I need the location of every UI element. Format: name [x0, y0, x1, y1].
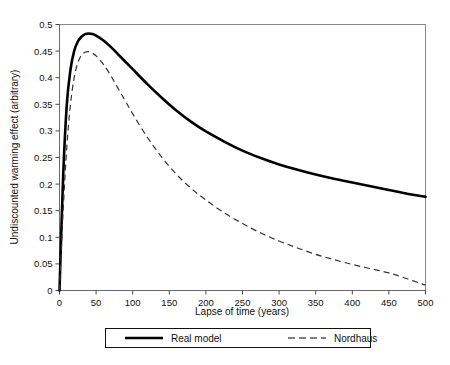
y-tick-label: 0.1: [39, 232, 52, 243]
chart-figure: 00.050.10.150.20.250.30.350.40.450.5 050…: [0, 0, 450, 365]
x-tick-label: 150: [161, 297, 177, 308]
y-tick-label: 0.4: [39, 72, 52, 83]
chart-legend: Real modelNordhaus: [106, 329, 378, 348]
legend-label-real-model: Real model: [171, 333, 222, 344]
legend-label-nordhaus: Nordhaus: [334, 333, 377, 344]
y-axis: 00.050.10.150.20.250.30.350.40.450.5: [34, 19, 60, 296]
x-tick-label: 350: [308, 297, 324, 308]
y-tick-label: 0.5: [39, 19, 52, 30]
chart-canvas: 00.050.10.150.20.250.30.350.40.450.5 050…: [0, 0, 450, 365]
x-tick-label: 0: [57, 297, 62, 308]
series-layer: [60, 34, 426, 291]
x-tick-label: 450: [381, 297, 397, 308]
y-tick-label: 0.05: [34, 258, 53, 269]
y-axis-title: Undiscounted warming effect (arbitrary): [9, 70, 20, 245]
y-tick-label: 0.3: [39, 125, 52, 136]
y-tick-label: 0: [47, 285, 52, 296]
y-tick-label: 0.2: [39, 179, 52, 190]
series-line-nordhaus: [60, 52, 426, 291]
x-tick-label: 500: [418, 297, 434, 308]
x-tick-label: 50: [91, 297, 102, 308]
series-line-real-model: [60, 34, 426, 291]
x-axis: 050100150200250300350400450500: [57, 291, 434, 308]
x-tick-label: 100: [125, 297, 141, 308]
y-tick-label: 0.25: [34, 152, 53, 163]
x-axis-title: Lapse of time (years): [195, 306, 289, 317]
y-tick-label: 0.15: [34, 205, 53, 216]
plot-frame: [60, 25, 426, 291]
y-tick-label: 0.35: [34, 99, 53, 110]
y-tick-label: 0.45: [34, 46, 53, 57]
x-tick-label: 400: [344, 297, 360, 308]
